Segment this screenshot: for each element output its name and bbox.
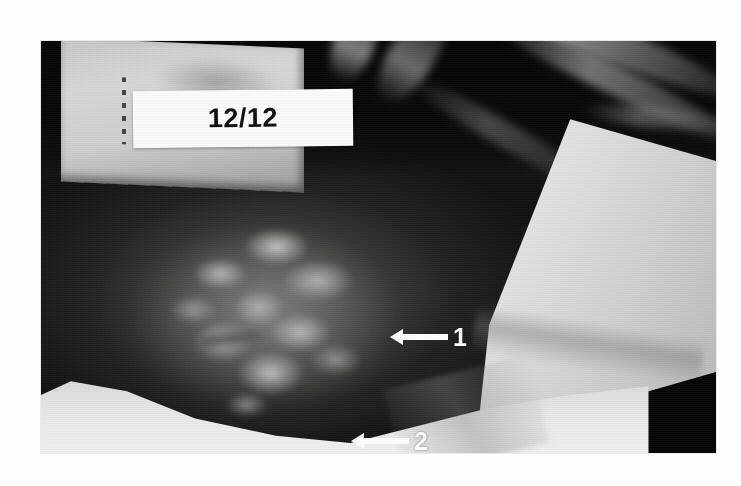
lesion-dark-streak: [199, 329, 265, 348]
placard-marks: [122, 78, 126, 144]
date-label-text: 12/12: [208, 105, 278, 133]
date-label: 12/12: [133, 89, 354, 148]
clinical-photograph: 12/12 1 2: [41, 41, 716, 453]
figure-root: 12/12 1 2: [0, 0, 741, 486]
